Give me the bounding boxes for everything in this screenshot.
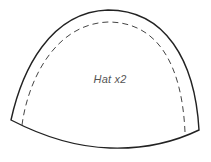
piece-label: Hat x2 (88, 73, 132, 85)
